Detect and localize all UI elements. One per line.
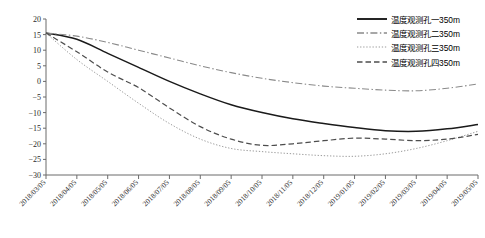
legend-swatch-series-3	[357, 42, 387, 52]
x-tick-label: 2018/11/05	[264, 178, 294, 208]
x-tick-label: 2018/08/05	[172, 178, 202, 208]
x-tick-label: 2018/10/05	[233, 178, 263, 208]
y-tick-label: −10	[28, 109, 41, 118]
x-tick-label: 2018/06/05	[110, 178, 140, 208]
legend-swatch-series-2	[357, 28, 387, 38]
legend-label-series-2: 温度观测孔二350m	[391, 27, 460, 39]
legend-item: 温度观测孔四350m	[357, 56, 460, 67]
legend-item: 温度观测孔二350m	[357, 27, 460, 38]
x-tick-group: 2018/03/052018/04/052018/05/052018/06/05…	[17, 175, 479, 208]
x-tick-label: 2019/02/05	[357, 178, 387, 208]
y-tick-label: 0	[37, 77, 41, 86]
y-tick-label: −20	[28, 140, 41, 149]
y-tick-label: 10	[33, 46, 41, 55]
x-tick-label: 2018/09/05	[202, 178, 232, 208]
x-tick-label: 2019/01/05	[326, 178, 356, 208]
x-tick-label: 2018/03/05	[17, 178, 47, 208]
x-tick-label: 2019/05/05	[449, 178, 479, 208]
x-tick-label: 2018/05/05	[79, 178, 109, 208]
x-tick-label: 2019/04/05	[418, 178, 448, 208]
legend-item: 温度观测孔一350m	[357, 13, 460, 24]
legend-item: 温度观测孔三350m	[357, 42, 460, 53]
legend: 温度观测孔一350m 温度观测孔二350m 温度观测孔三350m 温度观测孔四3…	[357, 13, 460, 67]
legend-label-series-1: 温度观测孔一350m	[391, 13, 460, 25]
legend-swatch-series-1	[357, 14, 387, 24]
y-tick-label: −25	[28, 155, 41, 164]
x-tick-label: 2018/12/05	[295, 178, 325, 208]
temperature-line-chart: 20151050−5−10−15−20−25−30 2018/03/052018…	[0, 0, 485, 238]
y-tick-label: −15	[28, 124, 41, 133]
y-tick-label: −5	[32, 93, 41, 102]
x-tick-label: 2018/07/05	[141, 178, 171, 208]
legend-label-series-3: 温度观测孔三350m	[391, 41, 460, 53]
legend-label-series-4: 温度观测孔四350m	[391, 56, 460, 68]
y-tick-label: 5	[37, 62, 41, 71]
x-tick-label: 2018/04/05	[48, 178, 78, 208]
legend-swatch-series-4	[357, 57, 387, 67]
x-tick-label: 2019/03/05	[388, 178, 418, 208]
y-tick-group: 20151050−5−10−15−20−25−30	[28, 15, 46, 180]
y-tick-label: 15	[33, 31, 41, 40]
y-tick-label: 20	[33, 15, 41, 24]
